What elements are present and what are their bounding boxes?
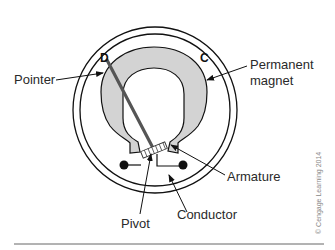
label-permanent-magnet-2: magnet bbox=[250, 74, 293, 88]
permanent-magnet bbox=[101, 47, 207, 153]
label-pivot: Pivot bbox=[121, 217, 150, 231]
right-terminal bbox=[179, 161, 188, 170]
label-permanent-magnet-1: Permanent bbox=[250, 58, 314, 72]
meter-diagram bbox=[0, 0, 335, 250]
label-conductor: Conductor bbox=[177, 208, 237, 222]
armature-coil bbox=[141, 142, 168, 158]
copyright-notice: © Cengage Learning 2014 bbox=[315, 152, 322, 234]
pivot-leader bbox=[140, 154, 151, 214]
armature-leader bbox=[171, 145, 225, 175]
label-armature: Armature bbox=[227, 170, 280, 184]
letter-c: C bbox=[200, 51, 209, 65]
magnet-leader bbox=[207, 66, 247, 80]
label-pointer: Pointer bbox=[14, 73, 55, 87]
letter-d: D bbox=[100, 51, 109, 65]
